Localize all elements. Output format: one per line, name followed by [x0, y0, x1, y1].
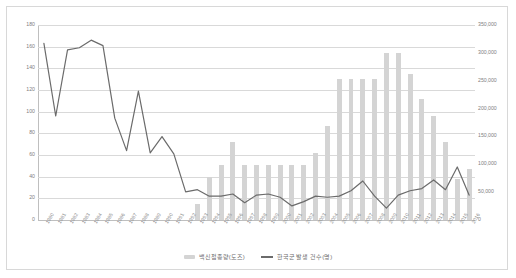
legend-swatch-line-icon — [261, 256, 273, 258]
y-tick-right: 350,000 — [478, 22, 512, 27]
legend-swatch-bar-icon — [184, 255, 195, 259]
y-tick-right: 200,000 — [478, 106, 512, 111]
legend-item-vaccine-doses: 백신접종량(도즈) — [184, 254, 245, 260]
y-tick-left: 60 — [9, 152, 35, 157]
y-tick-left: 160 — [9, 44, 35, 49]
y-tick-left: 100 — [9, 109, 35, 114]
y-tick-left: 40 — [9, 174, 35, 179]
chart-legend: 백신접종량(도즈) 한국군 발생 건수(명) — [7, 254, 509, 260]
chart-frame: 020406080100120140160180 050,000100,0001… — [6, 6, 508, 270]
legend-label-military-cases: 한국군 발생 건수(명) — [277, 254, 332, 260]
y-tick-left: 80 — [9, 130, 35, 135]
y-tick-right: 50,000 — [478, 189, 512, 194]
y-tick-left: 0 — [9, 217, 35, 222]
x-axis-labels: 1980198119821983198419851986198719881989… — [38, 222, 475, 256]
y-tick-right: 150,000 — [478, 133, 512, 138]
y-tick-left: 20 — [9, 195, 35, 200]
y-tick-left: 180 — [9, 22, 35, 27]
y-tick-left: 140 — [9, 65, 35, 70]
line-series-military-cases — [38, 25, 475, 220]
y-tick-right: 0 — [478, 217, 512, 222]
legend-item-military-cases: 한국군 발생 건수(명) — [261, 254, 332, 260]
y-tick-right: 250,000 — [478, 78, 512, 83]
y-tick-right: 100,000 — [478, 161, 512, 166]
y-tick-left: 120 — [9, 87, 35, 92]
plot-area: 020406080100120140160180 050,000100,0001… — [38, 25, 475, 220]
legend-label-vaccine-doses: 백신접종량(도즈) — [199, 254, 245, 260]
y-tick-right: 300,000 — [478, 50, 512, 55]
